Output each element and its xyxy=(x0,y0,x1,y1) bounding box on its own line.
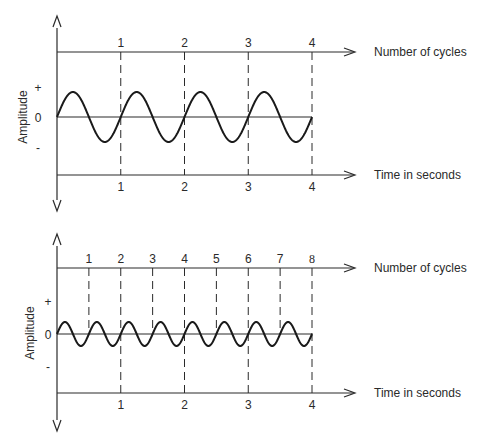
cycle-tick: 4 xyxy=(181,252,188,266)
arrow-up-icon xyxy=(53,234,61,245)
number-of-cycles-label: Number of cycles xyxy=(374,45,467,59)
plus-label: + xyxy=(34,81,41,95)
sine-wave-diagram: 1234 1234 + 0 - Amplitude Number of cycl… xyxy=(0,0,492,446)
cycle-tick: 2 xyxy=(181,36,188,50)
amplitude-label: Amplitude xyxy=(16,90,30,144)
cycle-tick: 6 xyxy=(245,252,252,266)
time-tick: 2 xyxy=(181,398,188,412)
time-tick: 1 xyxy=(117,180,124,194)
time-tick-labels: 1234 xyxy=(117,180,315,194)
arrow-up-icon xyxy=(53,16,61,27)
zero-label: 0 xyxy=(35,111,42,125)
time-tick: 1 xyxy=(117,398,124,412)
cycle-tick-labels: 1234 xyxy=(117,36,315,50)
number-of-cycles-label: Number of cycles xyxy=(374,261,467,275)
time-tick-labels: 1234 xyxy=(117,398,315,412)
panel-bottom: 12345678 1234 + 0 - Amplitude Number of … xyxy=(23,234,467,431)
minus-label: - xyxy=(46,360,50,374)
cycle-tick: 3 xyxy=(245,36,252,50)
panel-top: 1234 1234 + 0 - Amplitude Number of cycl… xyxy=(16,16,467,211)
time-in-seconds-label: Time in seconds xyxy=(374,386,461,400)
cycle-tick-labels: 12345678 xyxy=(86,252,315,266)
arrow-down-icon xyxy=(53,420,61,431)
time-tick: 3 xyxy=(245,398,252,412)
time-tick: 3 xyxy=(245,180,252,194)
amplitude-label: Amplitude xyxy=(23,306,37,360)
arrow-down-icon xyxy=(53,200,61,211)
plus-label: + xyxy=(44,295,51,309)
time-tick: 4 xyxy=(309,398,316,412)
cycle-tick: 1 xyxy=(117,36,124,50)
cycle-tick: 4 xyxy=(309,36,316,50)
dashed-guides xyxy=(121,52,312,175)
cycle-tick: 7 xyxy=(277,252,284,266)
time-tick: 4 xyxy=(309,180,316,194)
zero-label: 0 xyxy=(45,328,52,342)
cycle-tick: 2 xyxy=(117,252,124,266)
minus-label: - xyxy=(36,141,40,155)
cycle-tick: 8 xyxy=(309,252,315,266)
cycle-tick: 3 xyxy=(149,252,156,266)
cycle-tick: 5 xyxy=(213,252,220,266)
cycle-tick: 1 xyxy=(86,252,93,266)
time-tick: 2 xyxy=(181,180,188,194)
time-in-seconds-label: Time in seconds xyxy=(374,168,461,182)
